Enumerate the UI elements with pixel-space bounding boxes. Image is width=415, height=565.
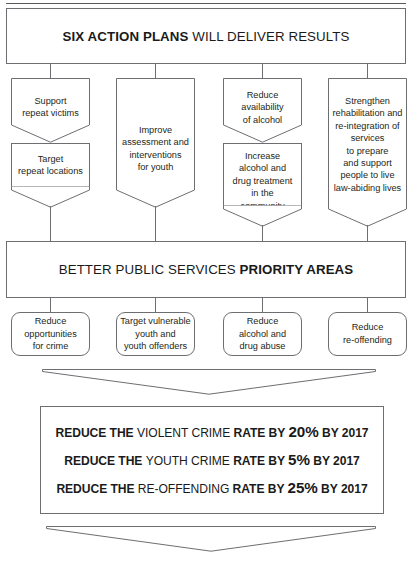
action-plan-1-top-shape: Supportrepeat victims (11, 78, 90, 143)
priority-area-box-1: Reduceopportunitiesfor crime (11, 312, 90, 356)
connector-plan-2-to-priority (155, 206, 156, 242)
connector-priority-to-area-4 (367, 298, 368, 312)
connector-priority-to-area-1 (50, 298, 51, 312)
result-3-bold1: REDUCE THE (56, 482, 137, 496)
action-plan-1-bottom-box: Targetrepeat locations (11, 143, 90, 187)
action-plan-1-bottom-point (11, 186, 90, 208)
priority-area-label-3: Reducealcohol anddrug abuse (239, 315, 286, 353)
result-3-year: BY 2017 (318, 482, 368, 496)
connector-plan-1-to-priority (50, 206, 51, 242)
result-1-percent: 20% (288, 423, 318, 440)
action-plan-3-top-shape: Reduceavailabilityof alcohol (223, 78, 302, 143)
connector-plan-3-to-priority (262, 225, 263, 242)
result-3-regular: RE-OFFENDING (138, 482, 233, 496)
result-2-regular: YOUTH CRIME (146, 454, 233, 468)
action-plan-4-shape: Strengthenrehabilitation andre-integrati… (328, 78, 407, 227)
result-2-bold1: REDUCE THE (64, 454, 145, 468)
action-plan-1-top-label: Supportrepeat victims (11, 95, 90, 120)
priority-area-label-1: Reduceopportunitiesfor crime (24, 315, 77, 353)
priority-banner-regular: BETTER PUBLIC SERVICES (59, 262, 240, 277)
priority-area-box-2: Target vulnerableyouth andyouth offender… (116, 312, 195, 356)
result-1-year: BY 2017 (319, 426, 369, 440)
action-plan-2-shape: Improveassessment andinterventionsfor yo… (116, 78, 195, 208)
result-line-3: REDUCE THE RE-OFFENDING RATE BY 25% BY 2… (56, 474, 367, 502)
connector-priority-to-area-2 (155, 298, 156, 312)
action-plan-1-bottom-label: Targetrepeat locations (12, 153, 89, 178)
action-plan-4-label: Strengthenrehabilitation andre-integrati… (328, 95, 407, 194)
connector-header-to-plan-3 (262, 64, 263, 78)
result-3-bold2: RATE BY (233, 482, 288, 496)
priority-area-box-4: Reducere-offending (328, 312, 407, 356)
result-1-regular: VIOLENT CRIME (137, 426, 234, 440)
priority-area-label-2: Target vulnerableyouth andyouth offender… (120, 315, 190, 353)
action-plan-3-bottom-label: Increasealcohol anddrug treatmentin thec… (224, 150, 301, 212)
header-banner-bold: SIX ACTION PLANS (63, 29, 189, 44)
result-1-bold1: REDUCE THE (56, 426, 137, 440)
flowchart-canvas: SIX ACTION PLANS WILL DELIVER RESULTS Su… (0, 0, 415, 565)
connector-header-to-plan-1 (50, 64, 51, 78)
result-3-percent: 25% (288, 479, 318, 496)
result-2-bold2: RATE BY (233, 454, 288, 468)
header-banner: SIX ACTION PLANS WILL DELIVER RESULTS (6, 8, 406, 64)
result-line-1: REDUCE THE VIOLENT CRIME RATE BY 20% BY … (56, 418, 369, 446)
priority-area-label-4: Reducere-offending (343, 321, 392, 346)
priority-banner-text: BETTER PUBLIC SERVICES PRIORITY AREAS (59, 262, 354, 277)
results-box: REDUCE THE VIOLENT CRIME RATE BY 20% BY … (40, 406, 384, 514)
action-plan-2-label: Improveassessment andinterventionsfor yo… (116, 124, 195, 174)
top-divider-rule (6, 3, 406, 4)
priority-areas-banner: BETTER PUBLIC SERVICES PRIORITY AREAS (6, 241, 406, 298)
chevron-down-icon-upper (42, 369, 376, 395)
priority-area-box-3: Reducealcohol anddrug abuse (223, 312, 302, 356)
action-plan-3-bottom-point (223, 205, 302, 227)
result-1-bold2: RATE BY (233, 426, 288, 440)
action-plan-3-top-label: Reduceavailabilityof alcohol (223, 89, 302, 126)
result-2-year: BY 2017 (310, 454, 360, 468)
connector-header-to-plan-2 (155, 64, 156, 78)
priority-banner-bold: PRIORITY AREAS (240, 262, 354, 277)
connector-priority-to-area-3 (262, 298, 263, 312)
header-banner-rest: WILL DELIVER RESULTS (189, 29, 350, 44)
connector-header-to-plan-4 (367, 64, 368, 78)
connector-plan-4-to-priority (367, 225, 368, 242)
action-plan-3-bottom-box: Increasealcohol anddrug treatmentin thec… (223, 143, 302, 206)
result-line-2: REDUCE THE YOUTH CRIME RATE BY 5% BY 201… (64, 446, 359, 474)
header-banner-text: SIX ACTION PLANS WILL DELIVER RESULTS (63, 29, 350, 44)
chevron-down-icon-lower (46, 526, 376, 552)
result-2-percent: 5% (288, 451, 310, 468)
